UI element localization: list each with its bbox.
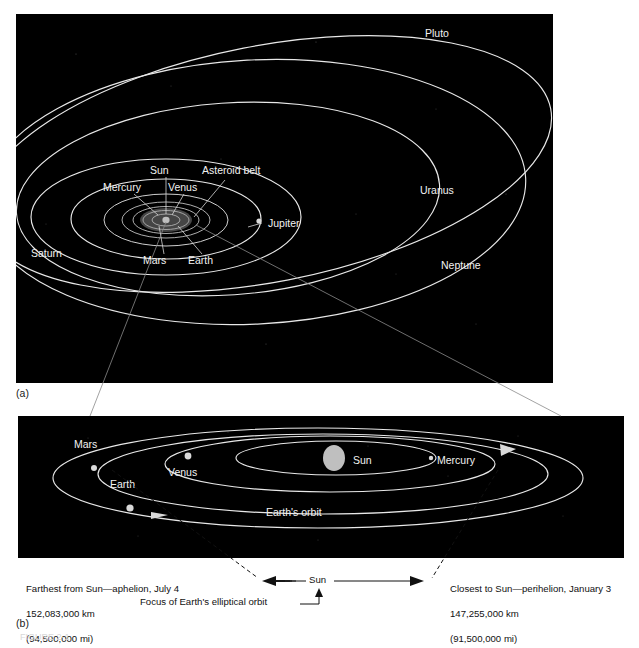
label-sun: Sun (150, 164, 169, 176)
caption-perihelion-line3: (91,500,000 mi) (450, 633, 635, 645)
panel-a-canvas: Pluto Uranus Neptune Saturn Jupiter Sun … (16, 14, 553, 383)
planet-marker-venus (185, 453, 192, 460)
label-venus: Venus (168, 181, 197, 193)
label-mars: Mars (74, 438, 97, 450)
arrowhead-right (410, 576, 424, 586)
panel-a-solar-system: Pluto Uranus Neptune Saturn Jupiter Sun … (16, 14, 553, 383)
label-sun: Sun (353, 454, 372, 466)
label-mercury: Mercury (437, 454, 476, 466)
dimension-label-sun: Sun (306, 574, 329, 585)
label-saturn: Saturn (31, 247, 62, 259)
panel-letter-a: (a) (16, 387, 29, 399)
planet-marker-earth (126, 504, 133, 511)
sun-body (162, 217, 169, 223)
label-mercury: Mercury (103, 181, 142, 193)
panel-b-canvas: Mars Earth Venus Sun Mercury Earth's orb… (18, 416, 624, 558)
caption-perihelion: Closest to Sun—perihelion, January 3 147… (450, 571, 635, 648)
arrowhead-left (262, 576, 276, 586)
label-mars: Mars (143, 254, 166, 266)
caption-perihelion-line1: Closest to Sun—perihelion, January 3 (450, 583, 635, 595)
label-venus: Venus (168, 466, 197, 478)
label-jupiter: Jupiter (268, 217, 300, 229)
label-neptune: Neptune (441, 259, 481, 271)
label-uranus: Uranus (420, 184, 454, 196)
caption-focus-note: Focus of Earth's elliptical orbit (140, 596, 267, 607)
label-earth: Earth (188, 254, 213, 266)
orbit-pluto (16, 14, 553, 335)
planet-marker-jupiter (256, 218, 261, 223)
label-earths-orbit: Earth's orbit (266, 506, 322, 518)
caption-aphelion-line2: 152,083,000 km (26, 608, 256, 620)
sun-body (323, 445, 345, 471)
label-pluto: Pluto (425, 27, 449, 39)
panel-b-earth-orbit: Mars Earth Venus Sun Mercury Earth's orb… (18, 416, 624, 558)
caption-aphelion-line1: Farthest from Sun—aphelion, July 4 (26, 583, 256, 595)
dimension-line-sun (262, 576, 424, 586)
caption-perihelion-line2: 147,255,000 km (450, 608, 635, 620)
label-earth: Earth (110, 478, 135, 490)
focus-leader (300, 588, 323, 604)
direction-arrow-outer (500, 444, 516, 456)
label-asteroid-belt: Asteroid belt (202, 164, 260, 176)
figure-caption: FIGURE 2-1 (20, 632, 70, 642)
orbit-neptune (16, 46, 533, 338)
orbit-uranus (16, 88, 446, 309)
orbit-earth (98, 434, 548, 514)
planet-marker-mercury (429, 456, 433, 460)
planet-marker-mars (91, 465, 97, 471)
